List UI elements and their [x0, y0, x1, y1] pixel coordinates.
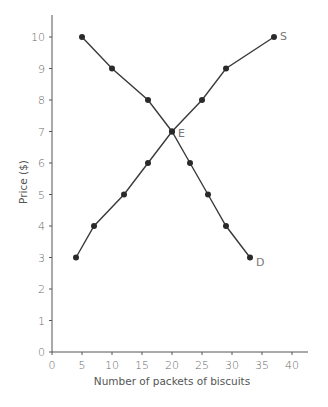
y-tick-label: 8	[38, 94, 45, 107]
x-tick-label: 40	[285, 359, 299, 372]
y-tick-label: 6	[38, 157, 45, 170]
y-tick-label: 3	[38, 252, 45, 265]
y-axis-title: Price ($)	[17, 160, 29, 204]
y-tick-label: 7	[38, 126, 45, 139]
x-tick-label: 35	[255, 359, 269, 372]
series-s	[73, 34, 277, 261]
axes	[52, 15, 308, 352]
x-tick-label: 25	[195, 359, 209, 372]
data-point-marker	[145, 160, 151, 166]
x-tick-label: 20	[165, 359, 179, 372]
label-d: D	[256, 256, 264, 269]
x-tick-label: 15	[135, 359, 149, 372]
data-point-marker	[205, 192, 211, 198]
data-point-marker	[73, 255, 79, 261]
y-tick-label: 0	[38, 346, 45, 359]
data-point-marker	[121, 192, 127, 198]
y-tick-label: 5	[38, 189, 45, 202]
y-tick-label: 1	[38, 315, 45, 328]
data-point-marker	[223, 66, 229, 72]
x-tick-label: 5	[79, 359, 86, 372]
data-point-marker	[199, 97, 205, 103]
annotations: ESD	[178, 30, 287, 269]
label-s: S	[280, 30, 287, 43]
data-point-marker	[145, 97, 151, 103]
data-point-marker	[79, 34, 85, 40]
data-point-marker	[271, 34, 277, 40]
supply-demand-chart: 0123456789100510152025303540 ESD Price (…	[0, 0, 328, 407]
curve-line	[76, 37, 274, 258]
x-tick-label: 10	[105, 359, 119, 372]
data-point-marker	[169, 129, 175, 135]
y-tick-label: 10	[31, 31, 45, 44]
label-e: E	[178, 127, 185, 140]
data-series	[73, 34, 277, 261]
data-point-marker	[109, 66, 115, 72]
x-tick-label: 0	[49, 359, 56, 372]
x-tick-label: 30	[225, 359, 239, 372]
y-tick-label: 2	[38, 283, 45, 296]
data-point-marker	[223, 223, 229, 229]
x-axis-title: Number of packets of biscuits	[94, 375, 250, 387]
data-point-marker	[187, 160, 193, 166]
data-point-marker	[247, 255, 253, 261]
y-tick-label: 9	[38, 63, 45, 76]
data-point-marker	[91, 223, 97, 229]
axis-ticks: 0123456789100510152025303540	[31, 31, 299, 372]
y-tick-label: 4	[38, 220, 45, 233]
